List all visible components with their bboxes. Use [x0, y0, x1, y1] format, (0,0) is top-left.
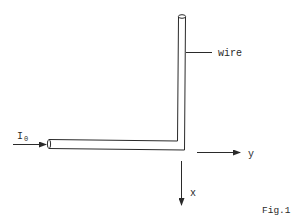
wire-top-end-cap: [178, 15, 185, 19]
x-axis-label: x: [190, 188, 196, 199]
current-label: I0: [17, 131, 28, 143]
wire-horizontal-top-edge: [49, 140, 178, 142]
figure-caption: Fig.1: [262, 205, 291, 216]
current-subscript: 0: [24, 135, 28, 143]
l-shaped-wire: [47, 15, 185, 150]
wire-label: wire: [218, 48, 242, 59]
wire-vertical-left-edge: [178, 17, 179, 141]
y-axis-label: y: [248, 149, 254, 160]
wire-horizontal-bottom-edge: [49, 149, 185, 151]
wire-diagram: wire I0 y x Fig.1: [0, 0, 301, 222]
wire-vertical-right-edge: [185, 17, 186, 150]
wire-left-end-cap: [47, 140, 50, 149]
current-symbol: I: [17, 131, 23, 142]
